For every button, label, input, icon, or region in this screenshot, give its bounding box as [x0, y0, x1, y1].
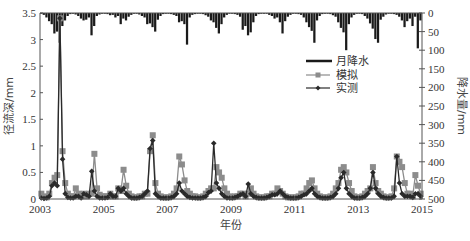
right-tick-label: 450: [428, 174, 445, 186]
precip-bar: [210, 13, 212, 20]
precip-bar: [53, 13, 55, 33]
precipitation-bars: [40, 13, 422, 50]
square-marker-icon: [346, 180, 352, 186]
precip-bar: [276, 13, 278, 17]
simulated-series: [38, 15, 423, 200]
precip-bar: [149, 13, 151, 23]
precip-bar: [334, 13, 336, 17]
x-tick-label: 2003: [29, 203, 52, 215]
left-tick-label: 0.5: [22, 166, 36, 178]
precip-bar: [93, 13, 95, 26]
precip-bar: [366, 13, 368, 19]
precip-bar: [369, 13, 371, 23]
precip-bar: [305, 13, 307, 22]
square-marker-icon: [415, 183, 421, 189]
precip-bar: [382, 13, 384, 17]
square-marker-icon: [412, 172, 418, 178]
precip-bar: [398, 13, 400, 17]
square-marker-icon: [213, 164, 219, 170]
precip-bar: [85, 13, 87, 20]
precip-bar: [223, 13, 225, 17]
x-tick-label: 2015: [411, 203, 434, 215]
square-marker-icon: [399, 164, 405, 170]
precip-bar: [51, 13, 53, 24]
precip-bar: [239, 13, 241, 17]
right-tick-label: 350: [428, 137, 445, 149]
precip-bar: [114, 13, 116, 17]
precip-bar: [183, 13, 185, 24]
right-tick-label: 400: [428, 156, 445, 168]
left-tick-label: 1.5: [22, 113, 36, 125]
precip-bar: [120, 13, 122, 24]
precip-bar: [409, 13, 411, 19]
right-tick-label: 300: [428, 119, 445, 131]
diamond-marker-icon: [316, 86, 321, 91]
diamond-marker-icon: [216, 186, 222, 192]
precip-bar: [90, 13, 92, 35]
left-tick-label: 1: [31, 140, 37, 152]
precip-bar: [122, 13, 124, 19]
left-tick-label: 3: [31, 34, 37, 46]
precip-bar: [417, 13, 419, 48]
precip-bar: [342, 13, 344, 32]
svg-text:模拟: 模拟: [336, 68, 358, 82]
svg-text:实测: 实测: [336, 81, 358, 95]
precip-bar: [154, 13, 156, 32]
precip-bar: [128, 13, 130, 17]
precip-bar: [372, 13, 374, 29]
left-tick-label: 3.5: [22, 7, 36, 19]
precip-bar: [189, 13, 191, 17]
precip-bar: [345, 13, 347, 50]
precip-bar: [281, 13, 283, 33]
precip-bar: [411, 13, 413, 26]
x-tick-label: 2011: [284, 203, 306, 215]
precip-bar: [406, 13, 408, 21]
square-marker-icon: [216, 169, 222, 175]
precip-bar: [316, 13, 318, 20]
precip-bar: [401, 13, 403, 20]
precip-bar: [48, 13, 50, 21]
diamond-marker-icon: [344, 186, 350, 192]
diamond-marker-icon: [211, 140, 217, 146]
x-axis-title: 年份: [220, 218, 242, 232]
precip-bar: [146, 13, 148, 24]
legend-item-precip: 月降水: [306, 54, 369, 68]
square-marker-icon: [309, 177, 315, 183]
precip-bar: [82, 13, 84, 20]
x-tick-label: 2005: [93, 203, 116, 215]
left-tick-label: 2.5: [22, 60, 36, 72]
precip-bar: [207, 13, 209, 17]
precip-bar: [88, 13, 90, 17]
axes: [40, 13, 422, 199]
runoff-precipitation-chart: 00.511.522.533.5 05010015020025030035040…: [0, 0, 470, 241]
precip-bar: [80, 13, 82, 19]
square-marker-icon: [150, 132, 156, 138]
x-tick-label: 2013: [347, 203, 370, 215]
precip-bar: [215, 13, 217, 28]
observed-line: [41, 18, 420, 198]
precip-bar: [313, 13, 315, 43]
square-marker-icon: [73, 185, 79, 191]
precip-bar: [273, 13, 275, 19]
precip-bar: [374, 13, 376, 39]
precip-bar: [143, 13, 145, 17]
x-tick-label: 2009: [220, 203, 243, 215]
square-marker-icon: [370, 164, 376, 170]
square-marker-icon: [219, 175, 225, 181]
diamond-marker-icon: [150, 138, 156, 144]
left-axis-title: 径流深/mm: [2, 77, 16, 135]
square-marker-icon: [341, 164, 347, 170]
precip-bar: [348, 13, 350, 24]
square-marker-icon: [91, 151, 97, 157]
square-marker-icon: [179, 161, 185, 167]
precip-bar: [125, 13, 127, 20]
square-marker-icon: [316, 73, 321, 78]
precip-bar: [212, 13, 214, 22]
right-tick-label: 150: [428, 63, 445, 75]
precip-bar: [244, 13, 246, 26]
right-axis-title: 降水量/mm: [455, 77, 469, 135]
precip-bar: [303, 13, 305, 17]
precip-bar: [419, 13, 421, 20]
right-tick-label: 100: [428, 44, 445, 56]
precip-bar: [45, 13, 47, 17]
